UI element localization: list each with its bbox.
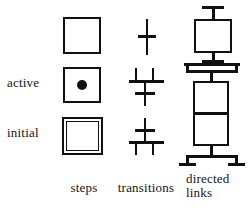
column-caption-steps: steps (60, 180, 108, 196)
transition-cross-bar (135, 92, 155, 95)
link-step-box (193, 81, 229, 114)
link-top-line (212, 6, 215, 20)
divergence-wide-bar (184, 63, 240, 66)
transition-cross-bar (138, 35, 156, 38)
transition-stub-right (152, 142, 154, 155)
symbol-link-convergence (184, 113, 244, 163)
figure-canvas: active initial (0, 0, 248, 209)
transition-stub-left (135, 142, 137, 155)
symbol-link-divergence (184, 63, 244, 115)
step-active-token (77, 80, 87, 90)
symbol-transition-plain (130, 17, 166, 57)
column-caption-directed-links-line2: links (186, 186, 244, 200)
symbol-step-active (63, 67, 103, 107)
link-step-box (193, 113, 229, 146)
symbol-step-initial (62, 117, 104, 159)
symbol-transition-initial (126, 116, 168, 158)
convergence-split-bar (186, 155, 238, 158)
step-square-inner (66, 121, 99, 151)
step-square-outline (63, 17, 101, 54)
column-caption-transitions: transitions (112, 180, 180, 196)
symbol-transition-active (126, 66, 168, 108)
convergence-foot-right (228, 163, 245, 166)
column-caption-directed-links: directed links (186, 172, 244, 200)
convergence-foot-left (179, 163, 196, 166)
symbol-step-plain (63, 17, 103, 57)
row-label-active: active (7, 75, 39, 91)
transition-cross-bar (135, 129, 155, 132)
column-caption-directed-links-line1: directed (186, 172, 244, 186)
row-label-initial: initial (7, 125, 39, 141)
symbol-link-plain (186, 6, 242, 62)
transition-wide-bar (129, 80, 164, 83)
link-step-box (194, 19, 232, 53)
